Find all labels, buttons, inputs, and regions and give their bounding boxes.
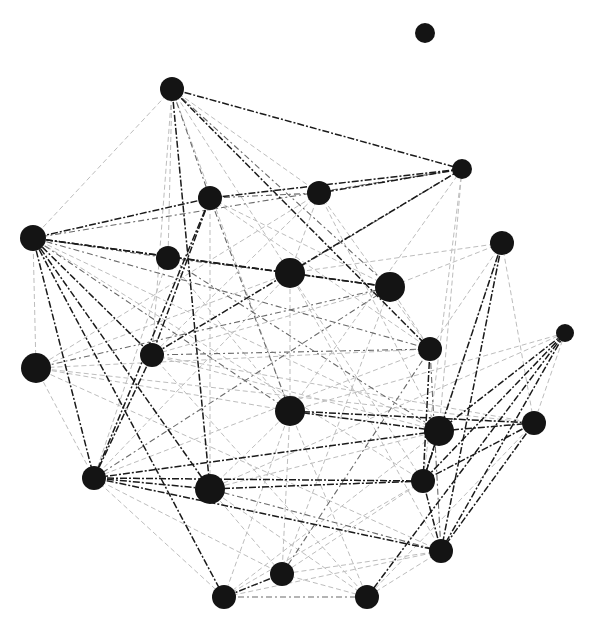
graph-node-6 (490, 231, 514, 255)
graph-node-17 (82, 466, 106, 490)
graph-node-18 (195, 474, 225, 504)
edge-9-13 (36, 287, 390, 368)
edge-5-9 (33, 238, 390, 287)
network-graph (0, 0, 597, 630)
edge-16-23 (367, 423, 534, 597)
graph-node-23 (355, 585, 379, 609)
edge-1-5 (33, 89, 172, 238)
edge-19-21 (282, 481, 423, 574)
graph-node-11 (418, 337, 442, 361)
edge-1-11 (172, 89, 430, 349)
graph-node-9 (375, 272, 405, 302)
graph-node-3 (198, 186, 222, 210)
edge-17-21 (94, 478, 282, 574)
edge-2-3 (210, 169, 462, 198)
graph-node-7 (156, 246, 180, 270)
graph-node-15 (424, 416, 454, 446)
graph-node-13 (21, 353, 51, 383)
edge-12-16 (152, 355, 534, 423)
edge-5-12 (33, 238, 152, 355)
graph-node-5 (20, 225, 46, 251)
edge-layer (33, 89, 565, 597)
edge-4-11 (319, 193, 430, 349)
edge-1-4 (172, 89, 319, 193)
edge-3-5 (33, 198, 210, 238)
edge-4-13 (36, 193, 319, 368)
edge-4-15 (319, 193, 439, 431)
edge-11-13 (36, 349, 430, 368)
graph-node-20 (429, 539, 453, 563)
edge-21-23 (282, 574, 367, 597)
graph-node-2 (452, 159, 472, 179)
edge-17-19 (94, 478, 423, 481)
edge-1-14 (172, 89, 290, 411)
edge-6-8 (290, 243, 502, 273)
edge-20-22 (224, 551, 441, 597)
graph-node-16 (522, 411, 546, 435)
graph-node-12 (140, 343, 164, 367)
graph-node-10 (556, 324, 574, 342)
edge-1-18 (172, 89, 210, 489)
edge-3-11 (210, 198, 430, 349)
graph-node-8 (275, 258, 305, 288)
edge-11-21 (282, 349, 430, 574)
graph-node-14 (275, 396, 305, 426)
edge-9-21 (282, 287, 390, 574)
edge-7-17 (94, 258, 168, 478)
edge-3-12 (152, 198, 210, 355)
edge-10-20 (441, 333, 565, 551)
edge-2-15 (439, 169, 462, 431)
edge-16-20 (441, 423, 534, 551)
edge-8-17 (94, 273, 290, 478)
graph-node-22 (212, 585, 236, 609)
edge-5-13 (33, 238, 36, 368)
graph-node-1 (160, 77, 184, 101)
graph-node-21 (270, 562, 294, 586)
graph-node-4 (307, 181, 331, 205)
edge-10-18 (210, 333, 565, 489)
edge-18-20 (210, 489, 441, 551)
edge-11-12 (152, 349, 430, 355)
graph-node-0 (415, 23, 435, 43)
edge-6-9 (390, 243, 502, 287)
edge-13-20 (36, 368, 441, 551)
edge-17-20 (94, 478, 441, 551)
node-layer (20, 23, 574, 609)
edge-11-17 (94, 349, 430, 478)
graph-node-19 (411, 469, 435, 493)
edge-13-17 (36, 368, 94, 478)
